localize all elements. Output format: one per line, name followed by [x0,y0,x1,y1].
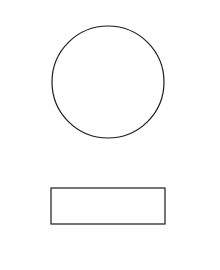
physics-field-diagram [0,0,220,270]
diagram-background [0,0,220,270]
